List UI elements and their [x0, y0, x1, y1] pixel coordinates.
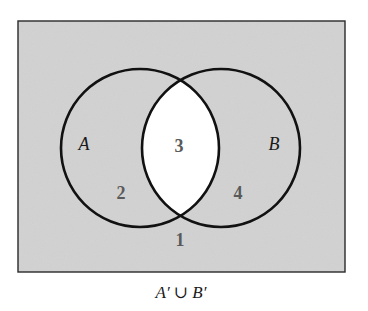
region-number-2: 2 — [117, 183, 126, 203]
region-number-3: 3 — [175, 136, 184, 156]
region-number-1: 1 — [176, 230, 185, 250]
venn-diagram: A B 3 2 4 1 — [0, 0, 368, 311]
set-b-label: B — [269, 134, 280, 154]
diagram-caption: A′ ∪ B′ — [0, 282, 362, 303]
region-number-4: 4 — [234, 183, 243, 203]
set-a-label: A — [78, 134, 91, 154]
